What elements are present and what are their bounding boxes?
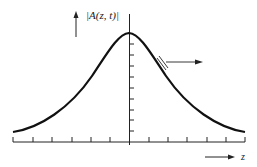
x-axis-label: z (241, 151, 245, 162)
y-axis-ticks (130, 44, 134, 131)
x-label-arrow-icon (205, 155, 235, 160)
y-label-arrow-icon (74, 11, 79, 37)
pulse-diagram (0, 0, 257, 167)
propagation-arrow-icon (157, 56, 203, 70)
y-axis-label: |A(z, t)| (86, 9, 119, 21)
